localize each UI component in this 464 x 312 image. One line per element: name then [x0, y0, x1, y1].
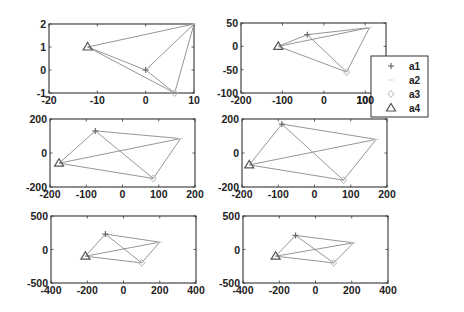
y-tick-label: 500	[30, 210, 48, 222]
y-tick-label: 0	[42, 244, 48, 256]
axes-box	[241, 23, 386, 93]
y-tick-label: 0	[40, 64, 46, 76]
legend-label-a2: a2	[409, 75, 421, 86]
subplot-4: -200-1000100200-2000200	[218, 113, 396, 200]
x-tick-label: 100	[342, 188, 360, 200]
x-tick-label: 200	[343, 284, 361, 296]
y-tick-label: 1	[40, 41, 46, 53]
y-tick-label: -50	[223, 64, 238, 76]
x-tick-label: -200	[77, 284, 98, 296]
x-tick-label: 0	[312, 188, 318, 200]
x-tick-label: -100	[272, 94, 293, 106]
y-tick-label: -1	[37, 87, 46, 99]
axes-box	[51, 216, 196, 283]
y-tick-label: 200	[221, 113, 239, 125]
x-tick-label: 0	[121, 284, 127, 296]
x-tick-label: 0	[321, 94, 327, 106]
y-tick-label: -200	[26, 181, 47, 193]
subplot-6: -400-2000200400-5000500	[219, 210, 397, 296]
x-tick-label: 200	[378, 188, 396, 200]
x-tick-label-overlap: 100	[357, 94, 375, 106]
figure-canvas: -20-10010-1012-200-1000100-100-50050-200…	[0, 0, 464, 312]
y-tick-label: 0	[234, 244, 240, 256]
x-tick-label: 0	[313, 284, 319, 296]
subplot-1: -20-10010-1012	[37, 18, 200, 106]
x-tick-label: 100	[150, 188, 168, 200]
x-tick-label: 400	[187, 284, 205, 296]
x-tick-label: -200	[269, 284, 290, 296]
y-tick-label: 50	[226, 17, 238, 29]
subplot-5: -400-2000200400-5000500	[27, 210, 205, 296]
x-tick-label: 200	[151, 284, 169, 296]
legend-label-a4: a4	[409, 103, 421, 114]
y-tick-label: -100	[217, 87, 238, 99]
legend-label-a1: a1	[409, 61, 421, 72]
x-tick-label: 400	[379, 284, 397, 296]
y-tick-label: 0	[232, 40, 238, 52]
legend-label-a3: a3	[409, 89, 421, 100]
subplots-group: -20-10010-1012-200-1000100-100-50050-200…	[26, 17, 397, 296]
x-tick-label: -10	[90, 94, 105, 106]
y-tick-label: -500	[27, 277, 48, 289]
y-tick-label: -500	[219, 277, 240, 289]
x-tick-label: -100	[268, 188, 289, 200]
y-tick-label: 2	[40, 18, 46, 30]
y-tick-label: 0	[41, 147, 47, 159]
subplot-3: -200-1000100200-2000200	[26, 113, 204, 200]
y-tick-label: 200	[29, 113, 47, 125]
y-tick-label: -200	[218, 181, 239, 193]
axes-box	[49, 24, 194, 93]
y-tick-label: 0	[233, 147, 239, 159]
x-tick-label: 200	[186, 188, 204, 200]
x-tick-label: -100	[76, 188, 97, 200]
subplot-2: -200-1000100-100-50050	[217, 17, 386, 106]
x-tick-label: 10	[188, 94, 200, 106]
x-tick-label: 0	[143, 94, 149, 106]
y-tick-label: 500	[222, 210, 240, 222]
x-tick-label: 0	[120, 188, 126, 200]
